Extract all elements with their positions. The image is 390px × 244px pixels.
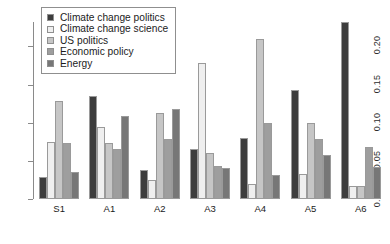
- y-axis-tick: [28, 123, 33, 124]
- legend-item-label: Climate change politics: [60, 12, 165, 23]
- x-axis-label-a1: A1: [89, 203, 129, 214]
- bar: [357, 186, 365, 199]
- legend-swatch-icon: [47, 60, 54, 67]
- bar: [291, 90, 299, 199]
- bar-group: [341, 12, 381, 199]
- bar: [172, 109, 180, 199]
- grouped-bar-chart: 0.000.050.100.150.20 S1A1A2A3A4A5A6 Clim…: [0, 0, 390, 244]
- legend-item-label: Climate change science: [60, 23, 168, 34]
- bar: [190, 149, 198, 199]
- y-axis-tick: [28, 85, 33, 86]
- bar: [214, 166, 222, 199]
- x-axis-label-a4: A4: [240, 203, 280, 214]
- y-axis-tick: [28, 161, 33, 162]
- bar-group: [240, 12, 280, 199]
- legend-item: Climate change politics: [47, 12, 168, 23]
- bar: [39, 177, 47, 199]
- bar: [373, 167, 381, 199]
- legend-item: Energy: [47, 58, 168, 69]
- bar: [113, 149, 121, 199]
- bar: [63, 143, 71, 199]
- bar: [156, 113, 164, 199]
- legend-swatch-icon: [47, 37, 54, 44]
- legend-swatch-icon: [47, 48, 54, 55]
- bar: [71, 172, 79, 199]
- bar: [248, 184, 256, 199]
- bar: [299, 174, 307, 199]
- bar: [315, 139, 323, 199]
- bar: [121, 116, 129, 199]
- bar: [198, 63, 206, 199]
- bar: [323, 155, 331, 199]
- bar: [264, 123, 272, 199]
- bar: [55, 101, 63, 199]
- bar: [341, 22, 349, 199]
- bar: [148, 180, 156, 199]
- chart-legend: Climate change politicsClimate change sc…: [41, 7, 176, 74]
- bar: [240, 138, 248, 199]
- bar: [89, 96, 97, 199]
- x-axis-label-s1: S1: [39, 203, 79, 214]
- x-axis-label-a3: A3: [190, 203, 230, 214]
- bar: [140, 170, 148, 199]
- bar: [365, 147, 373, 199]
- legend-item-label: US politics: [60, 35, 108, 46]
- bar-group: [190, 12, 230, 199]
- bar: [307, 123, 315, 199]
- bar-group: [291, 12, 331, 199]
- y-axis-tick: [28, 46, 33, 47]
- bar: [349, 186, 357, 199]
- x-axis-label-a5: A5: [291, 203, 331, 214]
- bar: [206, 153, 214, 199]
- x-axis-label-a6: A6: [341, 203, 381, 214]
- bar: [97, 127, 105, 199]
- legend-item: Climate change science: [47, 23, 168, 34]
- legend-item: Economic policy: [47, 46, 168, 57]
- y-axis-tick: [28, 199, 33, 200]
- legend-item-label: Economic policy: [60, 46, 134, 57]
- bar: [164, 139, 172, 199]
- bar: [272, 175, 280, 199]
- x-axis-label-a2: A2: [140, 203, 180, 214]
- bar: [47, 142, 55, 199]
- legend-item-label: Energy: [60, 58, 92, 69]
- legend-item: US politics: [47, 35, 168, 46]
- legend-swatch-icon: [47, 14, 54, 21]
- bar: [105, 143, 113, 199]
- legend-swatch-icon: [47, 26, 54, 33]
- bar: [256, 39, 264, 199]
- bar: [222, 168, 230, 199]
